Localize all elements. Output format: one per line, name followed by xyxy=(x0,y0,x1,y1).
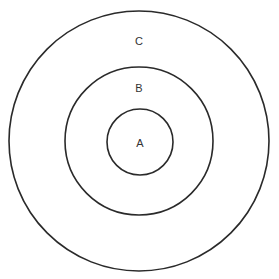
circle-a-group: A xyxy=(107,109,173,175)
label-a: A xyxy=(136,137,144,149)
label-b: B xyxy=(135,82,142,94)
label-c: C xyxy=(135,35,143,47)
concentric-circles-diagram: C B A xyxy=(0,0,279,279)
